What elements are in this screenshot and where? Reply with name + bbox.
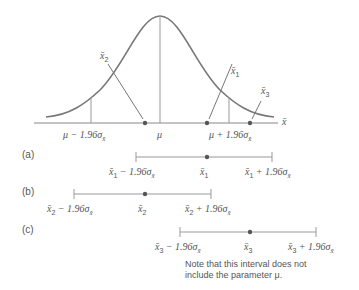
a-left-label: x̄1 − 1.96σx̄ (109, 166, 155, 182)
x2-pointer (108, 64, 143, 119)
c-left-label: x̄3 − 1.96σx̄ (155, 241, 201, 257)
x1-label: x̄1 (231, 65, 239, 80)
c-right-label: x̄3 + 1.96σx̄ (288, 241, 334, 257)
note-line-1: Note that this interval does not (185, 259, 307, 270)
interval-b (74, 189, 211, 199)
tag-b: (b) (22, 186, 34, 197)
tag-c: (c) (22, 224, 34, 235)
a-center-label: x̄1 (200, 166, 208, 181)
x3-dot (248, 121, 252, 125)
x3-label: x̄3 (261, 85, 269, 100)
note: Note that this interval does not include… (185, 259, 307, 281)
interval-c (180, 227, 316, 237)
a-right-label: x̄1 + 1.96σx̄ (245, 166, 291, 182)
axis-label: x̄ (282, 116, 286, 127)
c-center-label: x̄3 (244, 241, 252, 256)
b-center-label: x̄2 (138, 203, 146, 218)
b-right-label: x̄2 + 1.96σx̄ (185, 203, 231, 219)
interval-a (136, 152, 272, 162)
tag-a: (a) (22, 149, 34, 160)
x3-pointer (252, 101, 261, 119)
x2-label: x̄2 (100, 50, 108, 65)
upper-bound-label: μ + 1.96σx̄ (209, 129, 251, 145)
b-left-label: x̄2 − 1.96σx̄ (47, 203, 93, 219)
x2-dot (143, 121, 147, 125)
note-line-2: include the parameter μ. (185, 270, 307, 281)
lower-bound-label: μ − 1.96σx̄ (63, 129, 105, 145)
x1-dot (205, 121, 209, 125)
mu-label: μ (157, 129, 162, 140)
